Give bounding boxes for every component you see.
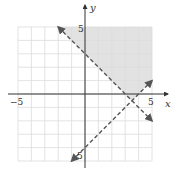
coordinate-plane xyxy=(0,0,177,170)
y-max-tick-label: 5 xyxy=(78,25,84,34)
x-max-tick-label: 5 xyxy=(148,98,154,107)
y-axis-label: y xyxy=(90,3,96,13)
x-axis-label: x xyxy=(165,99,171,109)
x-min-tick-label: −5 xyxy=(10,98,23,107)
y-min-tick-label: 5 xyxy=(77,152,83,161)
shaded-region xyxy=(58,27,152,101)
feasible-region xyxy=(58,27,152,101)
